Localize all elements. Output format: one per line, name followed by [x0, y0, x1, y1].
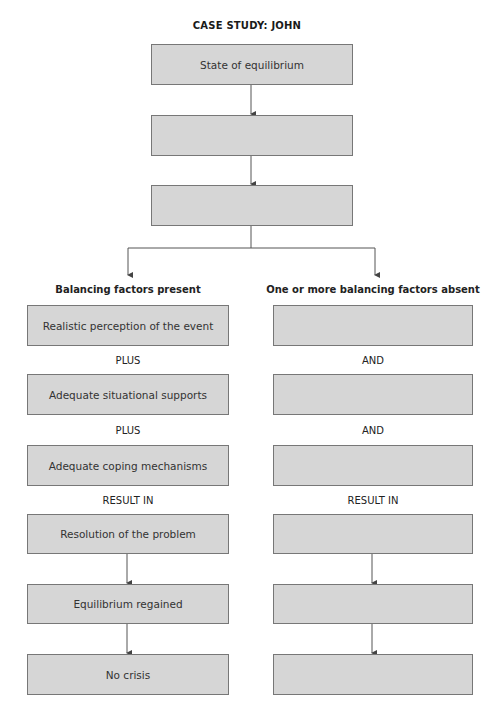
box-coping-mechanisms: Adequate coping mechanisms — [27, 445, 229, 486]
box-text: State of equilibrium — [200, 59, 304, 71]
box-blank-right-2 — [273, 374, 473, 415]
box-blank-right-5 — [273, 584, 473, 624]
box-realistic-perception: Realistic perception of the event — [27, 305, 229, 346]
box-text: Adequate coping mechanisms — [49, 460, 208, 472]
box-text: Equilibrium regained — [73, 598, 182, 610]
box-text: Realistic perception of the event — [43, 320, 214, 332]
right-connector-result-in: RESULT IN — [273, 495, 473, 506]
left-heading: Balancing factors present — [10, 284, 246, 295]
left-connector-plus-1: PLUS — [27, 355, 229, 366]
box-blank-right-6 — [273, 654, 473, 695]
right-connector-and-2: AND — [273, 425, 473, 436]
box-blank-top-3 — [151, 185, 353, 226]
box-text: No crisis — [106, 669, 150, 681]
box-blank-top-2 — [151, 115, 353, 156]
box-no-crisis: No crisis — [27, 654, 229, 695]
box-equilibrium-regained: Equilibrium regained — [27, 584, 229, 624]
box-blank-right-1 — [273, 305, 473, 346]
box-situational-supports: Adequate situational supports — [27, 374, 229, 415]
box-resolution-of-problem: Resolution of the problem — [27, 514, 229, 554]
box-blank-right-3 — [273, 445, 473, 486]
box-blank-right-4 — [273, 514, 473, 554]
box-state-of-equilibrium: State of equilibrium — [151, 44, 353, 85]
right-heading: One or more balancing factors absent — [255, 284, 491, 295]
left-connector-plus-2: PLUS — [27, 425, 229, 436]
right-connector-and-1: AND — [273, 355, 473, 366]
box-text: Resolution of the problem — [60, 528, 196, 540]
box-text: Adequate situational supports — [49, 389, 207, 401]
left-connector-result-in: RESULT IN — [27, 495, 229, 506]
